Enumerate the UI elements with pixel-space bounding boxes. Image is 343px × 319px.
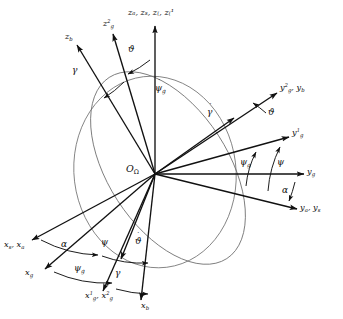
diagram-canvas: zₐ, zₛ, z₍, z₍¹ z2g zb y2g, yb y1g yg ya… — [0, 0, 343, 319]
angle-label-alpha-right: α — [282, 186, 288, 195]
axis-label-z-top: zₐ, zₛ, z₍, z₍¹ — [128, 8, 174, 16]
angle-label-alpha-left: α — [61, 240, 67, 249]
angle-arc-alpha-right — [289, 182, 295, 201]
angle-label-gamma-upper-left: γ — [72, 66, 77, 75]
axis-ray-y-a-y-s — [155, 174, 297, 209]
origin-label: OΩ — [126, 164, 139, 175]
angle-label-theta-top: ϑ — [128, 45, 134, 54]
angle-arc-psi-right — [268, 147, 280, 191]
angle-label-theta-right: ϑ — [268, 108, 274, 117]
angle-label-psi-right: ψ — [277, 158, 284, 167]
angle-label-psi-left: ψ — [101, 238, 108, 247]
axis-ray-z-g2 — [113, 34, 155, 174]
axis-label-y-g2-y-b: y2g, yb — [280, 83, 305, 93]
axis-ray-gamma-dot — [155, 118, 234, 174]
diagram-vector-graphics — [0, 0, 343, 319]
angle-label-psi-g-right: ψg — [240, 158, 251, 168]
axis-label-x-g: xg — [25, 268, 33, 278]
axis-label-x-b: xb — [141, 301, 149, 311]
axis-ray-x-g1-x-g2 — [103, 174, 155, 291]
axis-label-y-g: yg — [307, 167, 315, 177]
axis-ray-z-b — [77, 45, 155, 174]
angle-label-gamma-bottom: γ — [115, 269, 120, 278]
angle-label-psi-g-dot: ˙ψg — [155, 84, 166, 94]
axis-label-y-a-y-s: ya, ys — [300, 203, 321, 213]
axis-label-x-g1-x-g2: x1g, x2g — [85, 291, 113, 301]
axis-ray-x-g — [45, 174, 155, 269]
axis-ray-y-g1 — [155, 137, 289, 174]
angle-arc-gamma-upper — [104, 82, 124, 98]
axis-label-x-s-x-a: xs, xa — [4, 240, 24, 250]
axis-label-z-g2: z2g — [103, 19, 114, 29]
angle-label-psi-g-left: ψg — [74, 264, 85, 274]
angle-arc-gamma-bottom — [116, 289, 148, 294]
axis-label-y-g1: y1g — [292, 128, 303, 138]
angle-arc-theta-top — [128, 60, 150, 74]
angle-label-gamma-dot: ˙γ — [207, 108, 212, 117]
angle-label-theta-dot: ˙ϑ — [135, 237, 141, 246]
axis-label-z-b: zb — [65, 32, 73, 42]
